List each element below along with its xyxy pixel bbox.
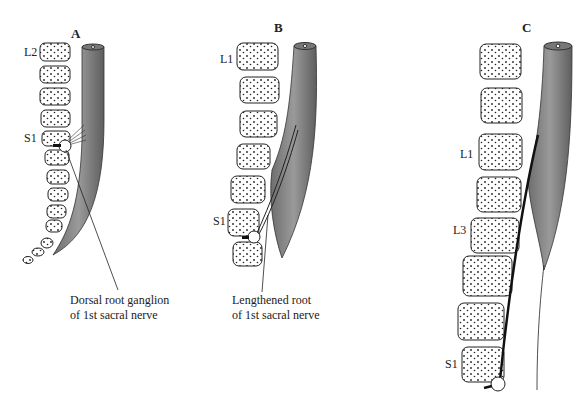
vertebra-label-l3-c: L3 (453, 223, 466, 238)
panel-c-vertebrae (458, 44, 522, 382)
caption-a-line-1: Dorsal root ganglion (70, 293, 169, 308)
vertebra-label-l1-c: L1 (460, 147, 473, 162)
caption-a: Dorsal root ganglion of 1st sacral nerve (70, 293, 169, 323)
panel-c-label: C (522, 20, 531, 36)
caption-b: Lengthened root of 1st sacral nerve (232, 293, 320, 323)
vertebra-label-s1-b: S1 (213, 214, 226, 229)
panel-a-label: A (71, 26, 80, 42)
vertebra-label-l2-a: L2 (24, 45, 37, 60)
vertebra-label-l1-b: L1 (220, 52, 233, 67)
panel-a-vertebrae (23, 43, 70, 264)
caption-b-line-2: of 1st sacral nerve (232, 308, 320, 323)
caption-a-line-2: of 1st sacral nerve (70, 308, 169, 323)
vertebra-label-s1-a: S1 (24, 131, 37, 146)
diagram-canvas (0, 0, 588, 398)
panel-b-label: B (274, 20, 283, 36)
caption-b-line-1: Lengthened root (232, 293, 320, 308)
vertebra-label-s1-c: S1 (445, 357, 458, 372)
